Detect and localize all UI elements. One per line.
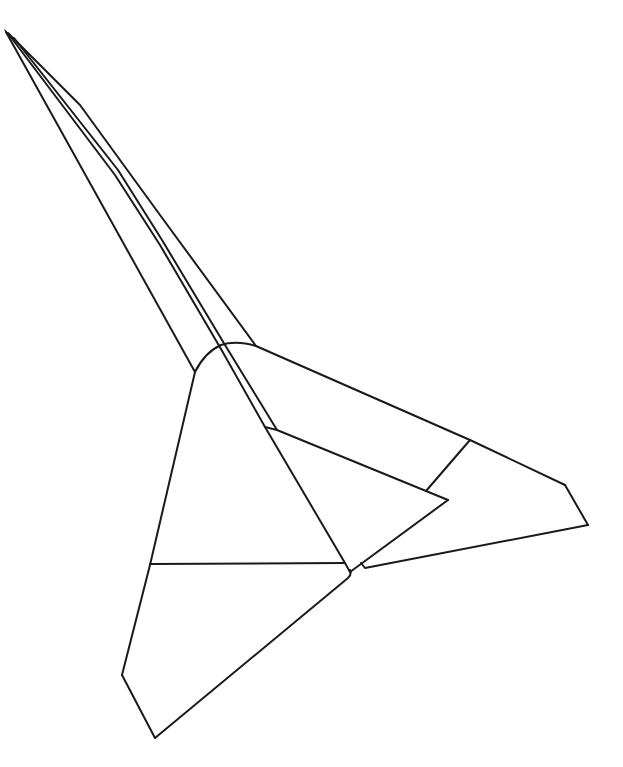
- left-wing-trailing-edge: [155, 570, 351, 738]
- center-crease: [265, 427, 350, 572]
- horizontal-crease: [150, 563, 345, 564]
- airplane-svg: [0, 0, 623, 767]
- fuselage-centerline-a: [10, 36, 265, 427]
- right-wing-trailing-edge: [361, 525, 588, 568]
- paper-airplane-drawing: [0, 0, 623, 767]
- left-body-edge: [122, 372, 195, 675]
- right-wing-leading-edge: [256, 346, 565, 485]
- fuselage-right-edge: [8, 33, 256, 346]
- fuselage-left-edge: [6, 32, 195, 372]
- fuselage-centerline-b: [14, 38, 277, 430]
- right-wing-fold: [426, 440, 470, 491]
- left-wing-tip: [122, 675, 155, 738]
- right-wing-tip: [565, 485, 588, 525]
